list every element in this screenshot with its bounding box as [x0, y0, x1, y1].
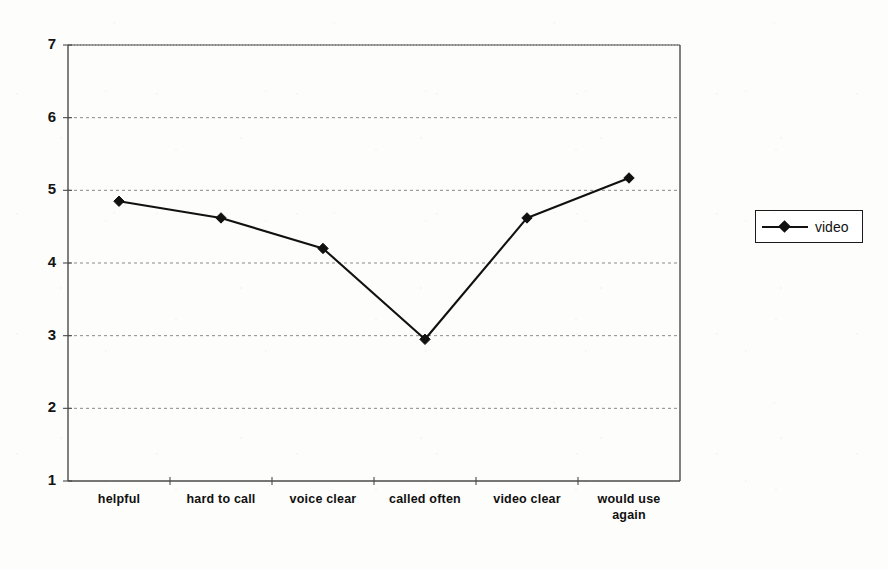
data-point-marker: [624, 173, 634, 183]
ytick-label: 4: [30, 253, 56, 270]
data-point-marker: [216, 213, 226, 223]
ytick-label: 3: [30, 326, 56, 343]
series-line: [119, 178, 629, 339]
ytick-label: 1: [30, 471, 56, 488]
ytick-label: 5: [30, 180, 56, 197]
data-point-marker: [114, 196, 124, 206]
xtick-label: voice clear: [272, 491, 374, 507]
xtick-label: would use again: [578, 491, 680, 523]
xtick-label: video clear: [476, 491, 578, 507]
ytick-label: 2: [30, 398, 56, 415]
xtick-label: hard to call: [170, 491, 272, 507]
axis-group: [63, 45, 680, 481]
xtick-label: helpful: [68, 491, 170, 507]
ytick-label: 7: [30, 35, 56, 52]
chart-figure: 7654321 helpfulhard to callvoice clearca…: [0, 0, 888, 569]
legend-entry-label: video: [815, 219, 848, 235]
gridline-group: [68, 45, 680, 408]
legend-line-marker-icon: [762, 220, 808, 234]
xtick-label: called often: [374, 491, 476, 507]
plot-area: [0, 0, 888, 569]
chart-legend: video: [755, 210, 863, 243]
series-video: [114, 173, 634, 345]
ytick-label: 6: [30, 108, 56, 125]
